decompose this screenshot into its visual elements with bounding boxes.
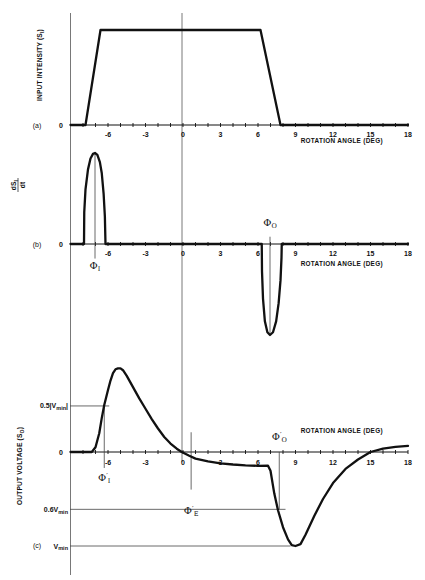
x-axis-title: ROTATION ANGLE (DEG) xyxy=(301,260,383,268)
series-curve xyxy=(71,368,409,546)
x-tick-label: 3 xyxy=(219,131,223,138)
x-tick-label: 15 xyxy=(367,459,375,466)
x-tick-label: 0 xyxy=(181,131,185,138)
x-tick-label: 12 xyxy=(329,250,337,257)
y-axis-title: INPUT INTENSITY (SI) xyxy=(36,29,45,101)
x-tick-label: 15 xyxy=(367,250,375,257)
x-tick-label: 6 xyxy=(256,131,260,138)
reference-label: 0.5|Vmin| xyxy=(40,402,68,411)
y-zero-label: 0 xyxy=(59,122,63,129)
x-tick-label: -6 xyxy=(105,459,111,466)
panel-label: (b) xyxy=(33,241,42,249)
series-curve xyxy=(71,30,409,125)
phi-o-label: ΦO xyxy=(263,217,277,230)
x-tick-label: 6 xyxy=(256,250,260,257)
x-tick-label: -3 xyxy=(142,250,148,257)
series-curve xyxy=(71,153,409,335)
x-tick-label: -3 xyxy=(142,459,148,466)
y-axis-title: OUTPUT VOLTAGE (SO) xyxy=(16,427,25,505)
x-tick-label: 9 xyxy=(294,131,298,138)
figure-canvas: -6-30369121518ROTATION ANGLE (DEG)0(a)IN… xyxy=(0,0,425,580)
panel-label: (a) xyxy=(33,122,42,130)
svg-text:dSI: dSI xyxy=(10,179,19,190)
svg-text:dt: dt xyxy=(19,181,26,188)
x-tick-label: -6 xyxy=(105,131,111,138)
panel-a: -6-30369121518ROTATION ANGLE (DEG)0(a)IN… xyxy=(33,29,412,145)
x-tick-label: 18 xyxy=(404,131,412,138)
panel-c: -6-30369121518ROTATION ANGLE (DEG)0(c)OU… xyxy=(16,368,412,551)
x-tick-label: 12 xyxy=(329,459,337,466)
y-zero-label: 0 xyxy=(59,449,63,456)
reference-label: 0.6Vmin xyxy=(44,506,69,515)
x-tick-label: 3 xyxy=(219,250,223,257)
x-tick-label: 18 xyxy=(404,250,412,257)
y-axis-title-derivative: dSIdt xyxy=(10,178,26,192)
x-axis-title: ROTATION ANGLE (DEG) xyxy=(301,427,383,435)
x-tick-label: -6 xyxy=(105,250,111,257)
phi-i-label: ΦI xyxy=(90,260,101,273)
x-tick-label: 18 xyxy=(404,459,412,466)
x-tick-label: 0 xyxy=(181,250,185,257)
panel-label: (c) xyxy=(33,542,41,550)
phi-o-prime-label: Φ′O xyxy=(272,431,287,444)
x-tick-label: 9 xyxy=(294,459,298,466)
phi-e-prime-label: Φ′E xyxy=(184,505,199,518)
phi-i-prime-label: Φ′I xyxy=(98,472,111,485)
x-tick-label: 9 xyxy=(294,250,298,257)
x-tick-label: -3 xyxy=(142,131,148,138)
x-tick-label: 0 xyxy=(181,459,185,466)
x-axis-title: ROTATION ANGLE (DEG) xyxy=(301,137,383,145)
reference-label: Vmin xyxy=(54,543,69,552)
y-zero-label: 0 xyxy=(59,241,63,248)
